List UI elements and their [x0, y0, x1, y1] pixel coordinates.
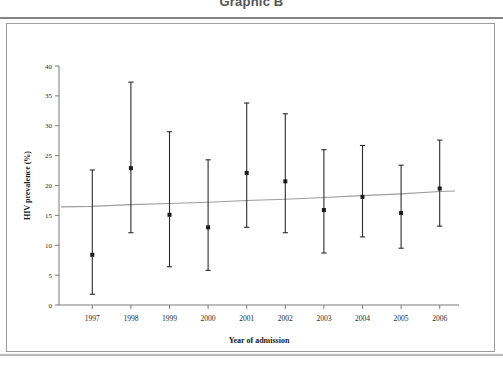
data-marker	[206, 225, 210, 229]
x-tick-label: 2001	[239, 314, 254, 323]
error-bars-group	[90, 82, 443, 294]
trend-line	[61, 191, 455, 207]
data-marker	[129, 166, 133, 170]
y-axis: 0510152025303540	[45, 63, 59, 310]
x-axis: 1997199819992000200120022003200420052006	[59, 305, 459, 323]
data-marker	[245, 171, 249, 175]
x-tick-label: 1997	[85, 314, 100, 323]
y-tick-label: 5	[49, 272, 53, 280]
page-title: Graphic B	[0, 0, 503, 9]
y-tick-label: 25	[45, 152, 53, 160]
scan-top-rule	[0, 17, 503, 19]
scan-bottom-rule	[0, 354, 503, 356]
y-tick-label: 0	[49, 302, 53, 310]
x-axis-title: Year of admission	[229, 336, 290, 345]
x-tick-label: 2006	[432, 314, 447, 323]
chart-plot: 0510152025303540 19971998199920002001200…	[6, 23, 495, 352]
data-marker	[283, 179, 287, 183]
data-marker	[361, 195, 365, 199]
y-tick-label: 10	[45, 242, 53, 250]
y-axis-title: HIV prevalence (%)	[23, 151, 32, 220]
trend-line-group	[61, 191, 455, 207]
x-tick-label: 1998	[123, 314, 138, 323]
y-tick-label: 35	[45, 92, 53, 100]
y-tick-label: 40	[45, 63, 53, 71]
data-marker	[399, 211, 403, 215]
y-tick-label: 30	[45, 122, 53, 130]
y-tick-label: 20	[45, 182, 53, 190]
x-tick-label: 2002	[278, 314, 293, 323]
x-tick-label: 2000	[201, 314, 216, 323]
x-tick-label: 2005	[394, 314, 409, 323]
data-marker	[168, 213, 172, 217]
x-tick-label: 2004	[355, 314, 370, 323]
data-marker	[438, 186, 442, 190]
data-markers-group	[90, 166, 441, 257]
x-tick-label: 2003	[316, 314, 331, 323]
data-marker	[90, 253, 94, 257]
data-marker	[322, 208, 326, 212]
y-tick-label: 15	[45, 212, 53, 220]
x-tick-label: 1999	[162, 314, 177, 323]
